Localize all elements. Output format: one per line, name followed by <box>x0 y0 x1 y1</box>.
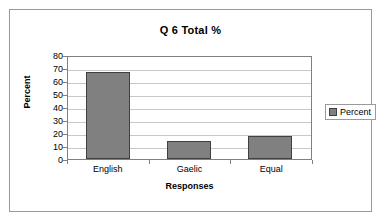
x-tick-label-gaelic: Gaelic <box>149 164 231 174</box>
y-tick-label: 10 <box>36 143 63 152</box>
bar-equal[interactable] <box>248 136 292 159</box>
y-axis-tick-labels: 80706050403020100 <box>36 56 63 160</box>
plot-area <box>67 56 312 160</box>
y-axis-title: Percent <box>22 62 32 122</box>
x-tick-mark <box>312 160 313 164</box>
legend-label: Percent <box>340 107 371 117</box>
y-tick-label: 0 <box>36 156 63 165</box>
bar-gaelic[interactable] <box>167 141 211 159</box>
y-tick-label: 40 <box>36 104 63 113</box>
y-tick-mark <box>63 147 67 148</box>
x-tick-label-english: English <box>67 164 149 174</box>
x-tick-mark <box>230 160 231 164</box>
y-tick-label: 30 <box>36 117 63 126</box>
y-tick-mark <box>63 121 67 122</box>
chart-title: Q 6 Total % <box>10 24 371 36</box>
y-tick-label: 70 <box>36 65 63 74</box>
legend-swatch-icon <box>329 108 337 116</box>
bar-slot <box>149 57 230 159</box>
y-tick-mark <box>63 108 67 109</box>
x-axis-title: Responses <box>67 181 312 191</box>
y-tick-label: 20 <box>36 130 63 139</box>
y-tick-mark <box>63 134 67 135</box>
y-tick-label: 80 <box>36 52 63 61</box>
y-tick-mark <box>63 56 67 57</box>
bar-english[interactable] <box>86 72 130 159</box>
y-tick-label: 50 <box>36 91 63 100</box>
x-tick-mark <box>67 160 68 164</box>
bar-slot <box>68 57 149 159</box>
legend: Percent <box>325 104 376 120</box>
y-tick-mark <box>63 82 67 83</box>
x-tick-mark <box>149 160 150 164</box>
chart-frame: Q 6 Total % Percent 80706050403020100 En… <box>9 9 372 212</box>
x-axis-tick-labels: EnglishGaelicEqual <box>67 164 312 174</box>
y-tick-mark <box>63 95 67 96</box>
bars-layer <box>68 57 311 159</box>
x-tick-label-equal: Equal <box>230 164 312 174</box>
y-tick-label: 60 <box>36 78 63 87</box>
y-tick-mark <box>63 69 67 70</box>
bar-slot <box>230 57 311 159</box>
